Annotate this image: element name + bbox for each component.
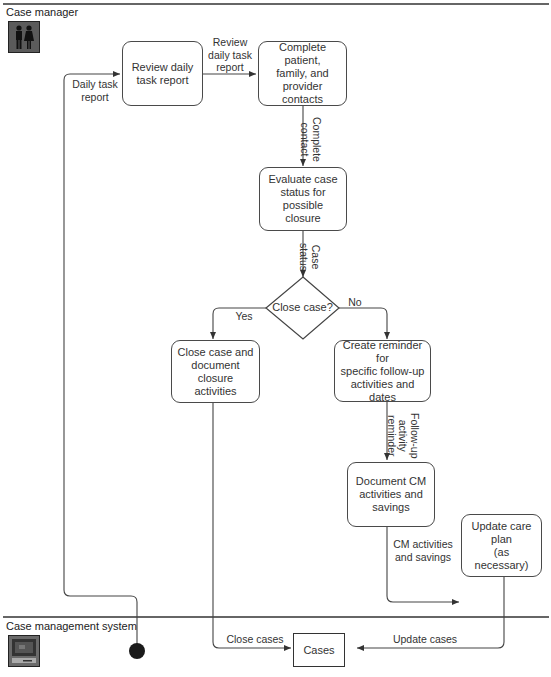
label-yes: Yes [232, 310, 256, 323]
node-review-daily-task-report[interactable]: Review daily task report [122, 41, 203, 106]
decision-close-case[interactable]: Close case? [266, 301, 339, 313]
lane-label-case-manager: Case manager [6, 6, 78, 18]
label-update-cases: Update cases [380, 633, 470, 646]
node-evaluate-case-status[interactable]: Evaluate case status for possible closur… [259, 167, 347, 231]
label-no: No [345, 296, 365, 309]
start-node [129, 643, 145, 659]
node-update-care-plan[interactable]: Update care plan (as necessary) [461, 514, 542, 577]
node-complete-contacts[interactable]: Complete patient, family, and provider c… [258, 41, 347, 106]
people-icon [8, 21, 40, 53]
label-case-status: Case status [298, 243, 321, 271]
label-daily-task-report: Daily task report [70, 78, 120, 103]
computer-icon [8, 635, 40, 667]
node-document-cm-activities[interactable]: Document CM activities and savings [347, 462, 435, 527]
node-create-reminder[interactable]: Create reminder for specific follow-up a… [334, 340, 431, 402]
data-store-cases[interactable]: Cases [293, 633, 345, 667]
edge-daily-task-report [64, 74, 137, 650]
label-review-daily-task-report: Review daily task report [205, 36, 255, 74]
label-complete-contact: Complete contact [299, 117, 322, 162]
label-close-cases: Close cases [220, 633, 290, 646]
edge-no [339, 308, 387, 339]
node-close-case[interactable]: Close case and document closure activiti… [171, 340, 260, 403]
label-follow-up-activity-reminder: Follow-up activity reminder [386, 413, 421, 459]
label-cm-activities-and-savings: CM activities and savings [389, 538, 457, 563]
edge-close-cases [213, 403, 291, 648]
lane-label-case-management-system: Case management system [6, 620, 137, 632]
